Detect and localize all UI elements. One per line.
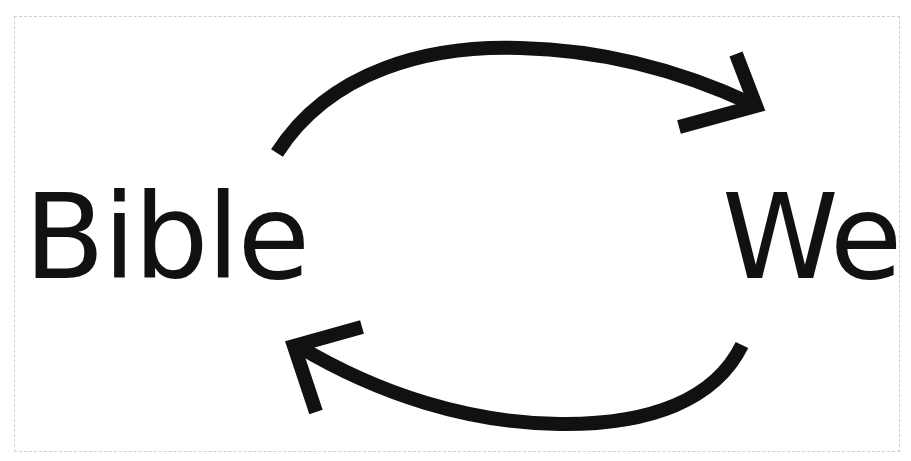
cycle-arrows xyxy=(0,0,911,461)
arrow-bible-to-we xyxy=(277,48,756,153)
arrow-we-to-bible xyxy=(294,327,742,424)
